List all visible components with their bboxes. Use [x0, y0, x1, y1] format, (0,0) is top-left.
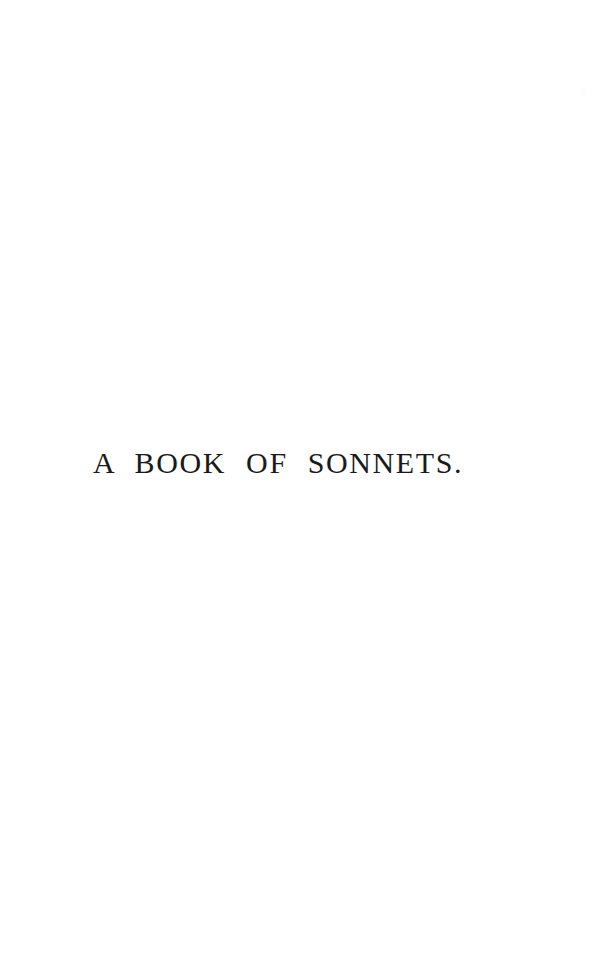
half-title-text: A BOOK OF SONNETS. [93, 448, 463, 478]
book-page: A BOOK OF SONNETS. [0, 0, 612, 967]
half-title-block: A BOOK OF SONNETS. [0, 0, 612, 967]
